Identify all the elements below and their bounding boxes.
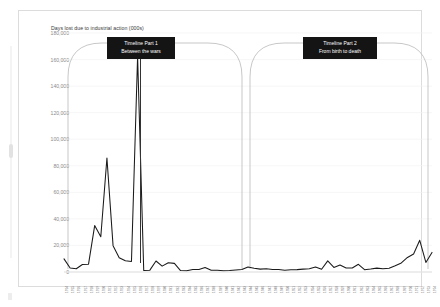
chart-svg bbox=[64, 33, 432, 272]
vertical-scrollbar[interactable] bbox=[10, 46, 12, 258]
x-tick-label: 1966 bbox=[384, 286, 388, 293]
x-tick-label: 1932 bbox=[176, 286, 180, 293]
scrollbar-thumb[interactable] bbox=[9, 144, 13, 158]
x-tick-label: 1927 bbox=[145, 286, 149, 293]
x-tick-label: 1948 bbox=[274, 286, 278, 293]
plot-area bbox=[64, 33, 432, 272]
x-tick-label: 1937 bbox=[206, 286, 210, 293]
x-tick-label: 1929 bbox=[157, 286, 161, 293]
x-tick-label: 1939 bbox=[219, 286, 223, 293]
horizontal-scrollbar-mark[interactable] bbox=[8, 293, 12, 300]
x-tick-label: 1971 bbox=[415, 286, 419, 293]
x-tick-label: 1950 bbox=[286, 286, 290, 293]
x-tick-label: 1924 bbox=[127, 286, 131, 293]
x-tick-label: 1942 bbox=[237, 286, 241, 293]
x-tick-label: 1947 bbox=[268, 286, 272, 293]
x-tick-label: 1920 bbox=[102, 286, 106, 293]
x-tick-label: 1926 bbox=[139, 286, 143, 293]
x-tick-label: 1963 bbox=[366, 286, 370, 293]
x-tick-label: 1935 bbox=[194, 286, 198, 293]
x-tick-label: 1974 bbox=[433, 286, 437, 293]
x-tick-label: 1973 bbox=[427, 286, 431, 293]
x-tick-label: 1922 bbox=[114, 286, 118, 293]
callout-timeline-part-2[interactable]: Timeline Part 2 From birth to death bbox=[303, 37, 377, 59]
x-tick-label: 1914 bbox=[65, 286, 69, 293]
callout-2-line-2: From birth to death bbox=[308, 48, 372, 56]
x-tick-label: 1952 bbox=[298, 286, 302, 293]
x-tick-label: 1965 bbox=[378, 286, 382, 293]
screenshot-root: Days lost due to industrial action (000s… bbox=[0, 0, 440, 307]
x-tick-label: 1945 bbox=[255, 286, 259, 293]
x-tick-label: 1923 bbox=[120, 286, 124, 293]
x-tick-label: 1953 bbox=[304, 286, 308, 293]
x-tick-label: 1946 bbox=[261, 286, 265, 293]
x-tick-label: 1918 bbox=[90, 286, 94, 293]
timeline-bracket-1 bbox=[68, 43, 242, 269]
x-tick-label: 1962 bbox=[360, 286, 364, 293]
callout-timeline-part-1[interactable]: Timeline Part 1 Between the wars bbox=[107, 37, 175, 59]
gridlines bbox=[64, 33, 432, 272]
x-tick-label: 1931 bbox=[169, 286, 173, 293]
x-tick-label: 1928 bbox=[151, 286, 155, 293]
x-tick-label: 1936 bbox=[200, 286, 204, 293]
x-tick-label: 1915 bbox=[71, 286, 75, 293]
x-tick-label: 1964 bbox=[372, 286, 376, 293]
x-tick-label: 1921 bbox=[108, 286, 112, 293]
x-tick-label: 1944 bbox=[249, 286, 253, 293]
x-tick-label: 1938 bbox=[212, 286, 216, 293]
x-tick-label: 1967 bbox=[390, 286, 394, 293]
x-tick-label: 1961 bbox=[353, 286, 357, 293]
x-tick-label: 1925 bbox=[133, 286, 137, 293]
x-tick-label: 1940 bbox=[225, 286, 229, 293]
x-tick-label: 1930 bbox=[163, 286, 167, 293]
callout-1-line-2: Between the wars bbox=[112, 48, 170, 56]
data-series-line bbox=[64, 57, 432, 271]
x-axis-labels: 1914191519161917191819191920192119221923… bbox=[64, 273, 432, 297]
x-tick-label: 1956 bbox=[323, 286, 327, 293]
x-tick-label: 1955 bbox=[317, 286, 321, 293]
callout-leader-line-1 bbox=[140, 58, 141, 263]
x-tick-label: 1943 bbox=[243, 286, 247, 293]
x-tick-label: 1951 bbox=[292, 286, 296, 293]
x-tick-label: 1916 bbox=[77, 286, 81, 293]
x-tick-label: 1957 bbox=[329, 286, 333, 293]
x-tick-label: 1958 bbox=[335, 286, 339, 293]
x-tick-label: 1960 bbox=[347, 286, 351, 293]
x-tick-label: 1934 bbox=[188, 286, 192, 293]
x-tick-label: 1917 bbox=[84, 286, 88, 293]
x-tick-label: 1954 bbox=[311, 286, 315, 293]
x-tick-label: 1949 bbox=[280, 286, 284, 293]
callout-2-line-1: Timeline Part 2 bbox=[323, 40, 356, 46]
x-tick-label: 1968 bbox=[396, 286, 400, 293]
x-tick-label: 1970 bbox=[409, 286, 413, 293]
x-tick-label: 1959 bbox=[341, 286, 345, 293]
x-tick-label: 1941 bbox=[231, 286, 235, 293]
timeline-bracket-2 bbox=[250, 43, 428, 269]
x-tick-label: 1972 bbox=[421, 286, 425, 293]
x-tick-label: 1969 bbox=[403, 286, 407, 293]
x-tick-label: 1933 bbox=[182, 286, 186, 293]
callout-1-line-1: Timeline Part 1 bbox=[124, 40, 157, 46]
x-tick-label: 1919 bbox=[96, 286, 100, 293]
